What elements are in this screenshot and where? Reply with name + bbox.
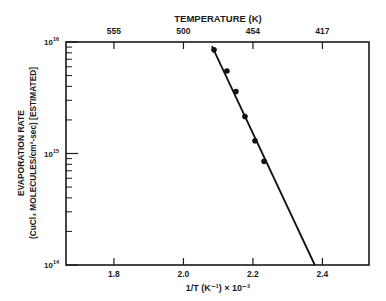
plot-frame — [66, 42, 369, 265]
x-axis-title: 1/T (K⁻¹) × 10⁻³ — [186, 283, 250, 293]
x-tick-label: 1.8 — [108, 269, 120, 279]
top-axis-title: TEMPERATURE (K) — [174, 13, 261, 24]
y-axis-title-line1: EVAPORATION RATE — [16, 110, 26, 196]
y-tick-label: 1016 — [44, 36, 59, 47]
y-axis-title-line2: (CuCl₃ MOLECULES/cm²-sec) [ESTIMATED] — [28, 67, 38, 239]
y-minor-ticks — [66, 47, 72, 231]
evaporation-rate-chart: 1.82.02.22.4 555500454417 101410151016 T… — [0, 0, 386, 301]
data-series — [211, 46, 315, 265]
fit-line — [212, 46, 315, 265]
plot-area-border — [66, 42, 369, 265]
y-tick-label: 1015 — [44, 148, 59, 159]
y-axis-ticks: 101410151016 — [44, 36, 78, 270]
top-axis-tick-label: 417 — [315, 26, 329, 36]
y-tick-label: 1014 — [44, 259, 60, 270]
top-axis-tick-label: 555 — [107, 26, 121, 36]
top-temperature-ticks: 555500454417 — [107, 26, 330, 49]
top-axis-tick-label: 500 — [176, 26, 190, 36]
x-tick-label: 2.4 — [317, 269, 329, 279]
x-tick-label: 2.0 — [178, 269, 190, 279]
x-tick-label: 2.2 — [247, 269, 259, 279]
top-axis-tick-label: 454 — [246, 26, 260, 36]
x-axis-ticks: 1.82.02.22.4 — [108, 258, 329, 279]
